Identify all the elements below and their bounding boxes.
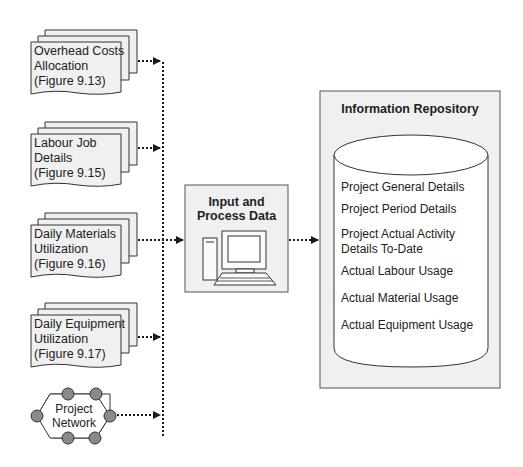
doc-line: (Figure 9.16) [34,257,116,272]
repo-item-line: Project Actual Activity [341,227,455,242]
document-label-overhead: Overhead Costs Allocation (Figure 9.13) [34,44,124,89]
doc-line: Daily Materials [34,227,116,242]
doc-line: Utilization [34,242,116,257]
repository-item-equipment: Actual Equipment Usage [341,318,473,333]
repository-item-activity: Project Actual Activity Details To-Date [341,227,455,256]
repo-item-line: Details To-Date [341,242,455,257]
project-network-label: Project Network [48,402,100,430]
doc-line: (Figure 9.13) [34,74,124,89]
process-title-line: Input and [185,195,288,209]
document-label-equipment: Daily Equipment Utilization (Figure 9.17… [34,317,125,362]
repository-item-period: Project Period Details [341,202,456,217]
repository-item-general: Project General Details [341,180,464,195]
doc-line: Details [34,151,106,166]
network-line: Network [48,416,100,430]
computer-icon [203,231,276,285]
doc-line: (Figure 9.15) [34,166,106,181]
document-label-labour: Labour Job Details (Figure 9.15) [34,136,106,181]
doc-line: Overhead Costs [34,44,124,59]
doc-line: Daily Equipment [34,317,125,332]
network-line: Project [48,402,100,416]
doc-line: Utilization [34,332,125,347]
doc-line: Labour Job [34,136,106,151]
input-process-title: Input and Process Data [185,195,288,223]
repository-item-labour: Actual Labour Usage [341,264,453,279]
process-title-line: Process Data [185,209,288,223]
repository-item-material: Actual Material Usage [341,291,458,306]
repository-title: Information Repository [320,102,500,116]
document-label-materials: Daily Materials Utilization (Figure 9.16… [34,227,116,272]
doc-line: Allocation [34,59,124,74]
doc-line: (Figure 9.17) [34,347,125,362]
